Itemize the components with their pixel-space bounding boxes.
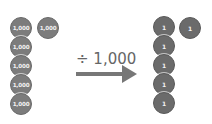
coin-1000: 1,000	[10, 93, 32, 115]
coin-label: 1	[162, 62, 166, 69]
coin-label: 1,000	[13, 82, 30, 88]
coin-label: 1,000	[13, 101, 30, 107]
coin-label: 1	[162, 100, 166, 107]
coin-1000: 1,000	[37, 17, 59, 39]
coin-1: 1	[179, 17, 201, 39]
coin-label: 1,000	[13, 63, 30, 69]
coin-label: 1,000	[13, 25, 30, 31]
coin-label: 1,000	[40, 25, 57, 31]
right-arrow-icon	[76, 64, 138, 84]
coin-label: 1	[188, 25, 192, 32]
coin-1: 1	[153, 92, 175, 114]
coin-label: 1	[162, 81, 166, 88]
coin-label: 1,000	[13, 44, 30, 50]
coin-label: 1	[162, 24, 166, 31]
coin-label: 1	[162, 43, 166, 50]
